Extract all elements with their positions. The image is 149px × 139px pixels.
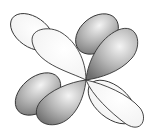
orbital-svg (0, 0, 149, 139)
orbital-diagram (0, 0, 149, 139)
